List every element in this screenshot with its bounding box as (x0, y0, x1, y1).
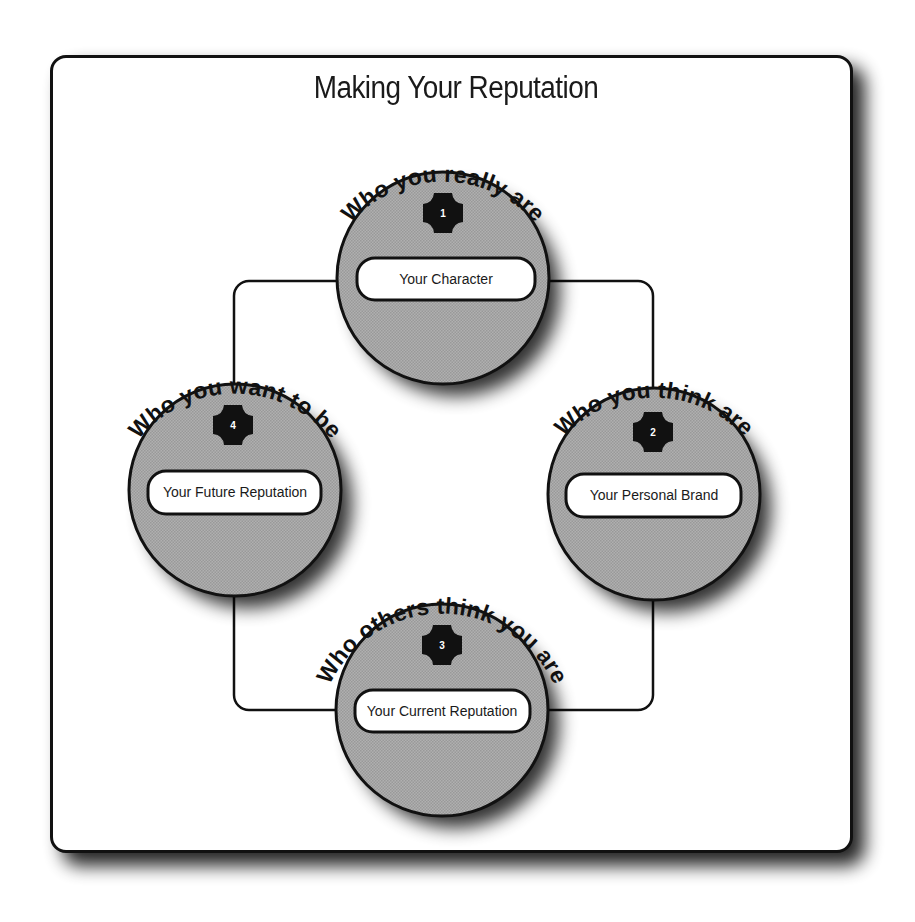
pill-label: Your Future Reputation (148, 471, 321, 514)
svg-text:1: 1 (440, 208, 446, 219)
svg-text:Your Future Reputation: Your Future Reputation (163, 484, 307, 500)
pill-label: Your Current Reputation (355, 690, 530, 732)
pill-label: Your Character (357, 258, 535, 300)
svg-text:Your Character: Your Character (399, 271, 493, 287)
node-1-character[interactable]: Who you really are 1 Your Character (336, 161, 550, 384)
node-2-personal-brand[interactable]: Who you think are 2 Your Personal Brand (548, 377, 760, 600)
svg-text:Your Personal Brand: Your Personal Brand (590, 487, 719, 503)
svg-text:4: 4 (230, 420, 236, 431)
svg-text:Your Current Reputation: Your Current Reputation (367, 703, 517, 719)
node-4-future-reputation[interactable]: Who you want to be 4 Your Future Reputat… (123, 372, 347, 596)
reputation-cycle-diagram: Who you really are 1 Your Character Who … (0, 0, 915, 922)
svg-text:2: 2 (650, 427, 656, 438)
pill-label: Your Personal Brand (566, 474, 741, 517)
diagram-stage: Making Your Reputation (0, 0, 915, 922)
svg-text:3: 3 (439, 640, 445, 651)
